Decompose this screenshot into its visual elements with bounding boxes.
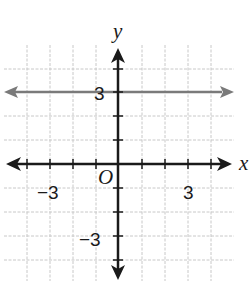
x-tick-label-pos3: 3 [183,182,194,203]
origin-label: O [98,165,113,189]
y-tick-label-neg3: −3 [79,229,101,250]
x-axis-label: x [238,151,249,175]
y-tick-label-pos3: 3 [94,83,105,104]
x-tick-label-neg3: −3 [37,182,59,203]
coordinate-plane: y x O −3 3 3 −3 [0,0,249,281]
y-axis-label: y [111,19,123,43]
